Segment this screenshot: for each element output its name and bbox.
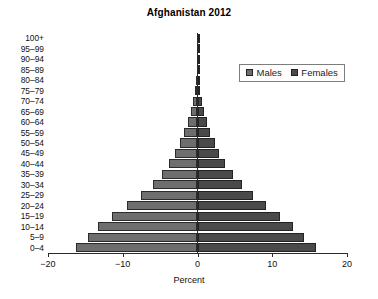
x-tick-label: −20 <box>28 259 68 269</box>
bar-females-25-29 <box>198 191 253 200</box>
bar-females-40-44 <box>198 159 226 168</box>
y-tick-label: 35–39 <box>2 169 44 179</box>
chart-legend: Males Females <box>239 64 345 82</box>
bar-females-55-59 <box>198 128 211 137</box>
x-tick-mark <box>347 253 348 257</box>
bar-males-5-9 <box>88 233 198 242</box>
bar-males-40-44 <box>169 159 197 168</box>
bar-females-35-39 <box>198 170 233 179</box>
zero-axis-line <box>197 33 198 254</box>
x-axis-title: Percent <box>0 275 378 285</box>
x-tick-label: −10 <box>103 259 143 269</box>
bar-females-60-64 <box>198 117 207 126</box>
x-tick-mark <box>272 253 273 257</box>
y-tick-label: 45–49 <box>2 148 44 158</box>
bar-females-45-49 <box>198 149 220 158</box>
bar-females-70-74 <box>198 97 202 106</box>
y-tick-label: 15–19 <box>2 211 44 221</box>
chart-title: Afghanistan 2012 <box>0 7 378 18</box>
y-tick-label: 20–24 <box>2 201 44 211</box>
bar-males-45-49 <box>175 149 197 158</box>
y-tick-label: 10–14 <box>2 222 44 232</box>
legend-label-females: Females <box>301 68 337 78</box>
bar-males-35-39 <box>162 170 198 179</box>
y-tick-label: 85–89 <box>2 65 44 75</box>
bar-males-25-29 <box>141 191 198 200</box>
y-tick-label: 40–44 <box>2 159 44 169</box>
y-tick-label: 75–79 <box>2 86 44 96</box>
x-tick-mark <box>198 253 199 257</box>
bar-males-30-34 <box>153 180 198 189</box>
bar-males-20-24 <box>127 201 197 210</box>
bar-females-10-14 <box>198 222 294 231</box>
bar-females-15-19 <box>198 212 280 221</box>
bar-males-15-19 <box>112 212 197 221</box>
bar-males-50-54 <box>180 138 198 147</box>
legend-swatch-males-icon <box>246 69 253 76</box>
bar-females-5-9 <box>198 233 304 242</box>
bar-males-0-4 <box>76 243 197 252</box>
population-pyramid-chart: Afghanistan 2012 0–45–910–1415–1920–2425… <box>0 0 378 299</box>
bar-males-55-59 <box>184 128 197 137</box>
legend-swatch-females-icon <box>291 69 298 76</box>
y-tick-label: 80–84 <box>2 75 44 85</box>
x-tick-label: 0 <box>178 259 218 269</box>
y-tick-label: 30–34 <box>2 180 44 190</box>
bar-males-10-14 <box>98 222 197 231</box>
y-tick-label: 90–94 <box>2 54 44 64</box>
legend-label-males: Males <box>257 68 282 78</box>
y-tick-label: 65–69 <box>2 107 44 117</box>
y-tick-label: 5–9 <box>2 232 44 242</box>
x-tick-label: 20 <box>327 259 367 269</box>
x-tick-label: 10 <box>252 259 292 269</box>
x-tick-mark <box>48 253 49 257</box>
y-tick-label: 95–99 <box>2 44 44 54</box>
x-tick-mark <box>123 253 124 257</box>
y-tick-label: 25–29 <box>2 190 44 200</box>
y-tick-label: 60–64 <box>2 117 44 127</box>
y-tick-label: 70–74 <box>2 96 44 106</box>
bar-females-50-54 <box>198 138 215 147</box>
legend-item-females: Females <box>291 68 338 78</box>
y-tick-label: 100+ <box>2 33 44 43</box>
y-tick-label: 50–54 <box>2 138 44 148</box>
legend-item-males: Males <box>246 68 282 78</box>
y-tick-label: 55–59 <box>2 128 44 138</box>
bar-females-65-69 <box>198 107 204 116</box>
bar-females-0-4 <box>198 243 317 252</box>
y-tick-label: 0–4 <box>2 243 44 253</box>
bar-females-30-34 <box>198 180 242 189</box>
bar-females-20-24 <box>198 201 266 210</box>
